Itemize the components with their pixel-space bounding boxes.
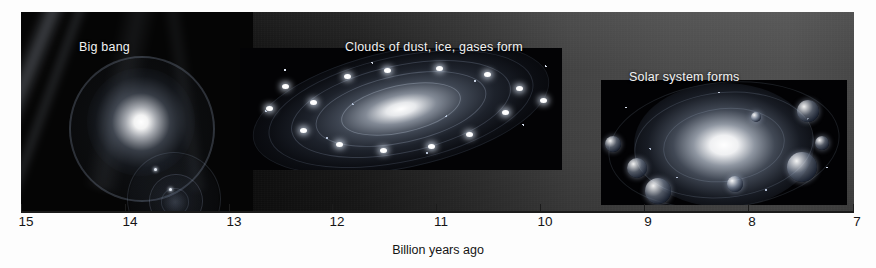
star-cluster-knot <box>266 106 273 111</box>
planet-body <box>627 158 647 178</box>
axis-tick <box>21 204 22 213</box>
event-label-big-bang: Big bang <box>79 40 130 54</box>
star-cluster-knot <box>436 66 443 71</box>
star-cluster-knot <box>540 98 547 103</box>
axis-tick-label: 14 <box>122 214 137 229</box>
planet-body <box>727 176 743 192</box>
star-cluster-knot <box>502 110 509 115</box>
axis-tick-label: 12 <box>329 214 344 229</box>
planet-body <box>787 152 817 182</box>
axis-tick-label: 11 <box>434 214 448 229</box>
event-label-solar-system-forms: Solar system forms <box>629 70 740 84</box>
axis-tick <box>332 204 333 213</box>
axis-tick-label: 7 <box>853 214 861 229</box>
cosmic-timeline-figure: Big bang Clouds of dust, ice, gases form… <box>0 0 876 268</box>
axis-tick-label: 13 <box>226 214 241 229</box>
star-cluster-knot <box>300 128 307 133</box>
big-bang-image <box>21 12 253 211</box>
star-cluster-knot <box>310 100 317 105</box>
star-cluster-knot <box>384 68 391 73</box>
axis-tick-label: 10 <box>537 214 552 229</box>
axis-tick-label: 8 <box>748 214 756 229</box>
planet-body <box>645 178 671 204</box>
axis-tick <box>436 204 437 213</box>
star-cluster-knot <box>516 86 523 91</box>
axis-line <box>21 211 854 213</box>
star-cluster-knot <box>484 72 491 77</box>
axis-tick <box>540 204 541 213</box>
timeline-panel: Big bang Clouds of dust, ice, gases form… <box>21 12 854 211</box>
star-cluster-knot <box>336 142 343 147</box>
planet-body <box>797 100 819 122</box>
axis-tick <box>125 204 126 213</box>
star-cluster-knot <box>428 144 435 149</box>
axis-title: Billion years ago <box>0 243 876 257</box>
planet-body <box>605 136 621 152</box>
spark-point <box>154 168 157 171</box>
planet-body <box>815 136 829 150</box>
axis-tick <box>229 204 230 213</box>
star-cluster-knot <box>344 74 351 79</box>
star-cluster-knot <box>466 132 473 137</box>
star-cluster-knot <box>282 84 289 89</box>
spiral-galaxy-image <box>240 48 562 170</box>
solar-system-image <box>601 80 847 205</box>
lens-flare-circle <box>161 188 189 211</box>
axis-tick <box>644 204 645 213</box>
event-label-clouds-form: Clouds of dust, ice, gases form <box>345 40 523 54</box>
axis-tick <box>853 204 854 213</box>
spark-point <box>169 188 172 191</box>
axis-tick-label: 15 <box>18 214 33 229</box>
planet-body <box>751 112 761 122</box>
axis-tick-label: 9 <box>644 214 652 229</box>
axis-tick <box>748 204 749 213</box>
star-cluster-knot <box>380 148 387 153</box>
